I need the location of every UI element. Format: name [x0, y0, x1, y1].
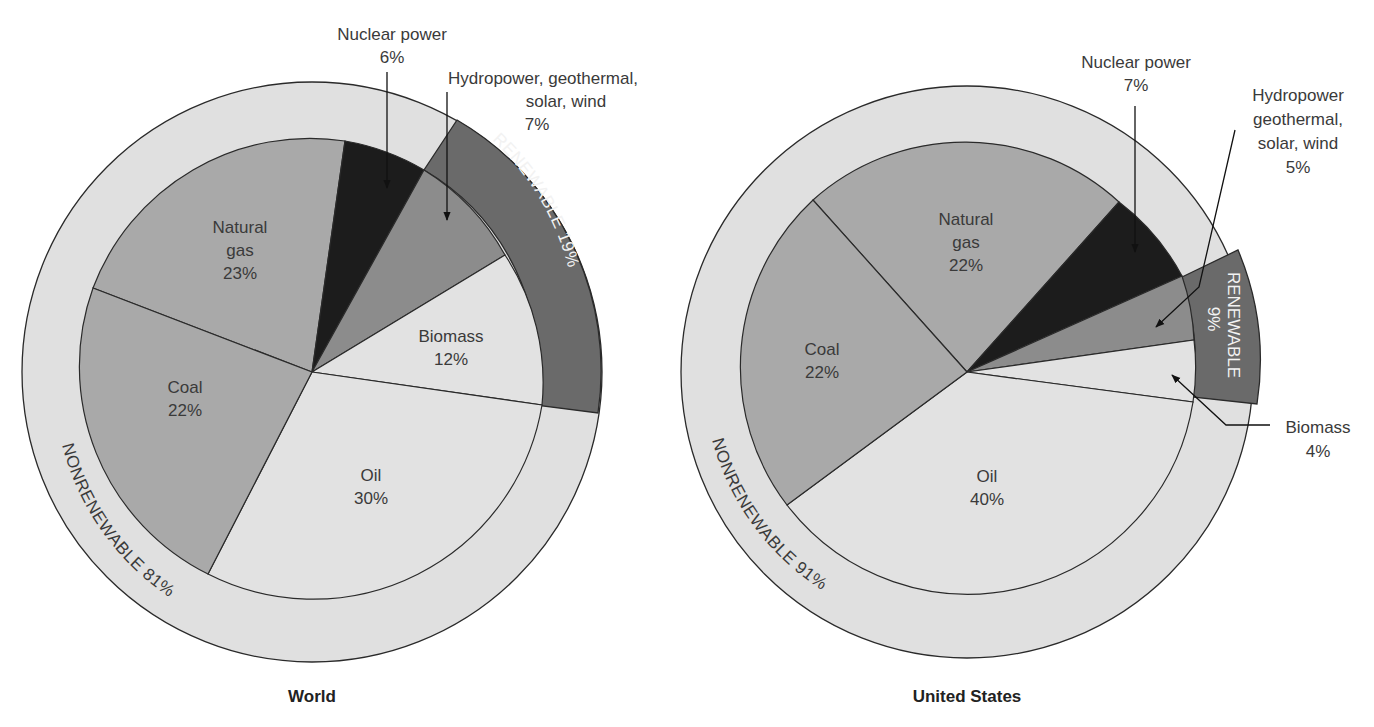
- world-biomass-pct: 12%: [434, 350, 468, 369]
- us-chart: Natural gas 22% Coal 22% Oil 40% Nuclear…: [681, 53, 1351, 706]
- us-title: United States: [913, 687, 1022, 706]
- energy-pie-charts: Natural gas 23% Coal 22% Oil 30% Biomass…: [0, 0, 1374, 727]
- world-coal-label: Coal: [168, 378, 203, 397]
- us-natgas-label-1: Natural: [939, 210, 994, 229]
- us-coal-pct: 22%: [805, 363, 839, 382]
- us-natgas-pct: 22%: [949, 256, 983, 275]
- world-natgas-label-1: Natural: [213, 218, 268, 237]
- world-oil-pct: 30%: [354, 489, 388, 508]
- us-hydro-label-2: geothermal,: [1253, 110, 1343, 129]
- us-coal-label: Coal: [805, 340, 840, 359]
- us-natgas-label-2: gas: [952, 233, 979, 252]
- world-biomass-label: Biomass: [418, 327, 483, 346]
- us-oil-label: Oil: [977, 467, 998, 486]
- us-hydro-label-1: Hydropower: [1252, 86, 1344, 105]
- us-biomass-label: Biomass: [1285, 418, 1350, 437]
- us-nuclear-label: Nuclear power: [1081, 53, 1191, 72]
- world-oil-label: Oil: [361, 466, 382, 485]
- us-oil-pct: 40%: [970, 490, 1004, 509]
- world-natgas-label-2: gas: [226, 241, 253, 260]
- world-natgas-pct: 23%: [223, 264, 257, 283]
- world-hydro-label-2: solar, wind: [526, 92, 606, 111]
- world-coal-pct: 22%: [168, 401, 202, 420]
- world-chart: Natural gas 23% Coal 22% Oil 30% Biomass…: [22, 25, 638, 706]
- us-hydro-label-3: solar, wind: [1258, 134, 1338, 153]
- world-hydro-label-1: Hydropower, geothermal,: [448, 69, 638, 88]
- us-biomass-pct: 4%: [1306, 442, 1331, 461]
- us-hydro-pct: 5%: [1286, 158, 1311, 177]
- world-nuclear-pct: 6%: [380, 48, 405, 67]
- us-nuclear-pct: 7%: [1124, 76, 1149, 95]
- world-hydro-pct: 7%: [525, 115, 550, 134]
- us-renewable-label-2: 9%: [1204, 307, 1223, 332]
- us-renewable-label-1: RENEWABLE: [1224, 272, 1243, 378]
- world-title: World: [288, 687, 336, 706]
- world-nuclear-label: Nuclear power: [337, 25, 447, 44]
